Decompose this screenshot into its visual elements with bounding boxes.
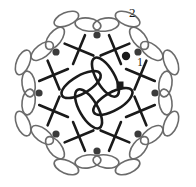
- chain-stitch-ellipse: [137, 122, 166, 148]
- center-hub-square: [117, 82, 124, 89]
- chain-junction-dot: [93, 31, 100, 38]
- chain-stitch-ellipse: [28, 38, 57, 64]
- chain-stitch-ellipse: [157, 70, 173, 98]
- cross-stroke-b: [39, 97, 68, 126]
- chain-stitch-ellipse: [126, 24, 152, 53]
- chain-stitch-ellipse: [42, 24, 68, 53]
- round-marker-dot: [122, 52, 130, 60]
- cross-stitch-symbol: [65, 35, 94, 64]
- cross-stroke-b: [39, 61, 68, 90]
- crochet-chart: 2 1: [0, 0, 196, 187]
- cross-stroke-b: [101, 122, 130, 151]
- chain-junction-dot: [52, 48, 59, 55]
- chain-junction-dot: [151, 89, 158, 96]
- crochet-diagram-svg: [0, 0, 196, 187]
- chain-stitch-ellipse: [126, 133, 152, 162]
- center-hub-node: [117, 82, 124, 89]
- chain-junction-dot: [134, 130, 141, 137]
- chain-junction-dot: [52, 130, 59, 137]
- cross-stitch-symbol: [39, 61, 68, 90]
- cross-stroke-b: [65, 122, 94, 151]
- center-petal-cluster: [58, 54, 137, 133]
- chain-junction-dot: [93, 147, 100, 154]
- cross-stitch-symbol: [101, 122, 130, 151]
- cross-stitch-symbol: [126, 97, 155, 126]
- chain-stitch-ellipse: [42, 133, 68, 162]
- cross-stitch-symbol: [39, 97, 68, 126]
- chain-junction-dot: [35, 89, 42, 96]
- round-1-marker-dot: [122, 52, 130, 60]
- cross-stitch-symbol: [65, 122, 94, 151]
- cross-stroke-b: [65, 35, 94, 64]
- round-2-label: 2: [129, 6, 136, 19]
- round-1-label: 1: [137, 56, 143, 69]
- cross-stroke-b: [126, 97, 155, 126]
- inner-node-ring: [35, 31, 158, 154]
- chain-stitch-ellipse: [28, 122, 57, 148]
